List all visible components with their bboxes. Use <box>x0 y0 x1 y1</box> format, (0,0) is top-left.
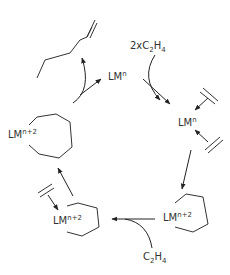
metallacycloheptane <box>29 114 72 158</box>
metallacyclopentane-left-label: LMn+2 <box>53 214 82 226</box>
ethylene-ligand-left <box>38 184 58 210</box>
hexene-structure <box>37 20 97 78</box>
lm-right-label: LMn <box>178 116 197 128</box>
lm-top-label: LMn <box>108 70 127 82</box>
elimination-arrow <box>73 58 101 103</box>
catalytic-cycle-diagram: LMn 2xC2H4 LMn LMn+2 C2H <box>0 0 230 275</box>
metallacyclopentane-right-label: LMn+2 <box>163 211 192 223</box>
reagent-bottom-label: C2H4 <box>143 251 167 265</box>
oxidative-coupling-arrow <box>182 150 191 189</box>
coordination-arrow <box>143 55 170 104</box>
ethylene-ligand-top <box>195 88 218 110</box>
ethylene-ligand-bottom <box>195 130 223 153</box>
ethylene-insertion-arrow <box>112 219 155 248</box>
ring-expansion-arrow <box>58 168 73 196</box>
reagent-top-label: 2xC2H4 <box>130 40 166 54</box>
metallacycloheptane-label: LMn+2 <box>8 128 37 140</box>
